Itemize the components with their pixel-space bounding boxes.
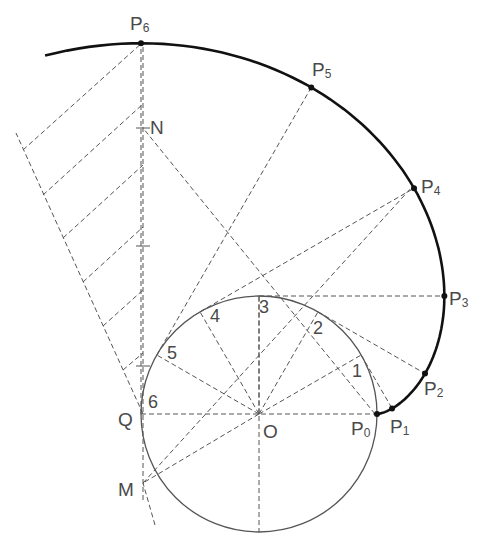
label-circle-5: 5: [167, 343, 177, 363]
radius-line: [200, 312, 259, 414]
label-P6: P6: [130, 13, 150, 35]
label-Q: Q: [118, 409, 133, 430]
label-P5: P5: [312, 59, 332, 81]
svg-text:P3: P3: [449, 288, 469, 310]
label-N: N: [150, 117, 164, 138]
parallel-division-line: [23, 42, 143, 150]
involute-point-dot: [389, 406, 395, 412]
label-P0: P0: [351, 418, 371, 440]
parallel-division-line: [43, 104, 143, 195]
radius-line: [259, 355, 361, 414]
tangent-line: [318, 312, 425, 374]
tangent-line: [157, 87, 311, 355]
svg-text:P2: P2: [424, 378, 444, 400]
parallel-division-line: [123, 353, 143, 370]
involute-point-dot: [374, 411, 380, 417]
label-P1: P1: [390, 416, 410, 438]
label-P3: P3: [449, 288, 469, 310]
involute-curve: [45, 43, 444, 414]
involute-point-dot: [411, 185, 417, 191]
label-circle-4: 4: [210, 306, 220, 326]
involute-point-dot: [138, 40, 144, 46]
svg-text:P1: P1: [390, 416, 410, 438]
slanted-division-line: [16, 133, 143, 414]
parallel-division-line: [83, 227, 143, 282]
label-circle-1: 1: [352, 361, 362, 381]
label-P4: P4: [421, 176, 441, 198]
radius-line: [157, 355, 259, 414]
parallel-division-line: [103, 290, 143, 326]
involute-diagram: O Q M N 1 2 3 4 5 6 P0 P1 P2 P3 P4 P5 P6: [0, 0, 484, 551]
label-circle-3: 3: [259, 297, 269, 317]
tangent-line: [200, 188, 414, 312]
radius-line: [259, 312, 318, 414]
svg-text:P6: P6: [130, 13, 150, 35]
label-circle-2: 2: [313, 318, 323, 338]
construction-lines: [141, 43, 444, 532]
label-P2: P2: [424, 378, 444, 400]
involute-point-dot: [308, 84, 314, 90]
involute-point-dot: [441, 293, 447, 299]
parallel-division-line: [63, 165, 143, 238]
label-O: O: [263, 421, 278, 442]
svg-text:P5: P5: [312, 59, 332, 81]
svg-text:P0: P0: [351, 418, 371, 440]
label-circle-6: 6: [148, 392, 158, 412]
involute-point-dot: [422, 371, 428, 377]
involute-point-markers: [138, 40, 447, 417]
division-lines: [16, 42, 150, 414]
radius-to-M: [143, 414, 259, 483]
svg-text:P4: P4: [421, 176, 441, 198]
short-extension: [143, 483, 155, 525]
label-M: M: [118, 479, 134, 500]
